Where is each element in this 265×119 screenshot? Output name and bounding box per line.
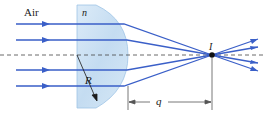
- index-label: n: [82, 7, 87, 18]
- image-point: [209, 52, 215, 58]
- lens-body: [77, 5, 128, 108]
- distance-label: q: [156, 95, 162, 107]
- image-label: I: [208, 41, 213, 52]
- refraction-diagram: Air n R I q: [0, 0, 265, 119]
- radius-label: R: [84, 74, 92, 86]
- air-label: Air: [24, 6, 39, 18]
- distance-dimension: [128, 58, 212, 110]
